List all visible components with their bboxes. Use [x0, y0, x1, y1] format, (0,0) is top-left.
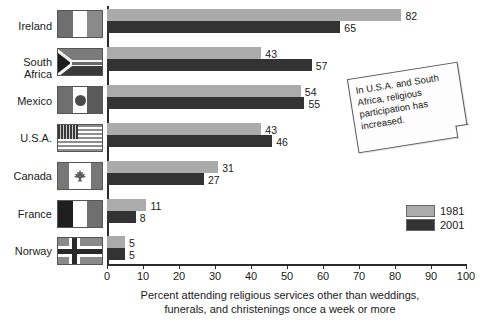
x-tick-30 [215, 264, 216, 269]
bar-value-usa-1981: 43 [265, 124, 277, 136]
bar-ireland-1981 [107, 9, 401, 21]
bar-value-usa-2001: 46 [276, 136, 288, 148]
legend-swatch-1981 [406, 205, 435, 217]
x-tick-label-70: 70 [344, 270, 374, 282]
x-tick-90 [431, 264, 432, 269]
x-tick-40 [251, 264, 252, 269]
category-label-canada: Canada [2, 170, 52, 182]
bar-france-2001 [107, 211, 136, 223]
category-label-ireland: Ireland [2, 20, 52, 32]
callout-note: In U.S.A. and South Africa, religious pa… [347, 62, 469, 154]
bar-canada-1981 [107, 161, 218, 173]
callout-fold-corner [455, 124, 470, 139]
x-axis-title-line-2: funerals, and christenings once a week o… [90, 302, 470, 316]
category-label-norway: Norway [2, 245, 52, 257]
x-tick-50 [287, 264, 288, 269]
bar-mexico-1981 [107, 85, 301, 97]
legend-label-1981: 1981 [440, 205, 464, 217]
x-tick-label-100: 100 [451, 270, 481, 282]
bar-chart: Ireland South Africa Mexico U.S.A. Canad… [0, 0, 485, 336]
bar-value-southafrica-1981: 43 [265, 48, 277, 60]
bar-value-southafrica-2001: 57 [316, 60, 328, 72]
bar-value-france-2001: 8 [140, 212, 146, 224]
x-tick-label-80: 80 [380, 270, 410, 282]
x-tick-label-50: 50 [272, 270, 302, 282]
bar-value-mexico-1981: 54 [305, 86, 317, 98]
x-axis-title: Percent attending religious services oth… [90, 288, 470, 316]
x-tick-label-60: 60 [308, 270, 338, 282]
bar-value-ireland-2001: 65 [344, 22, 356, 34]
flag-south-africa [57, 48, 103, 76]
flag-france [57, 200, 103, 228]
x-tick-70 [359, 264, 360, 269]
bar-canada-2001 [107, 173, 204, 185]
bar-value-norway-2001: 5 [129, 249, 135, 261]
x-tick-label-20: 20 [164, 270, 194, 282]
x-tick-20 [179, 264, 180, 269]
category-label-usa: U.S.A. [2, 132, 52, 144]
flag-usa [57, 124, 103, 152]
bar-value-norway-1981: 5 [129, 237, 135, 249]
x-tick-80 [395, 264, 396, 269]
flag-ireland [57, 10, 103, 38]
flag-canada [57, 162, 103, 190]
x-tick-label-30: 30 [200, 270, 230, 282]
bar-ireland-2001 [107, 21, 340, 33]
bar-southafrica-2001 [107, 59, 312, 71]
x-tick-label-10: 10 [128, 270, 158, 282]
bar-value-mexico-2001: 55 [308, 98, 320, 110]
bar-value-canada-1981: 31 [222, 162, 234, 174]
bar-norway-2001 [107, 248, 125, 260]
x-tick-label-40: 40 [236, 270, 266, 282]
legend-swatch-2001 [406, 219, 435, 231]
x-tick-100 [466, 264, 467, 269]
bar-value-ireland-1981: 82 [405, 10, 417, 22]
bar-value-canada-2001: 27 [208, 174, 220, 186]
bar-usa-2001 [107, 135, 272, 147]
bar-mexico-2001 [107, 97, 304, 109]
x-tick-0 [107, 264, 108, 269]
bar-france-1981 [107, 199, 146, 211]
bar-southafrica-1981 [107, 47, 261, 59]
x-axis-title-line-1: Percent attending religious services oth… [90, 288, 470, 302]
category-label-mexico: Mexico [2, 95, 52, 107]
category-label-south-africa: South Africa [2, 56, 52, 80]
x-tick-60 [323, 264, 324, 269]
x-tick-label-0: 0 [92, 270, 122, 282]
category-label-france: France [2, 208, 52, 220]
bar-value-france-1981: 11 [150, 200, 161, 212]
flag-mexico [57, 86, 103, 114]
flag-norway [57, 237, 103, 265]
x-tick-10 [143, 264, 144, 269]
x-tick-label-90: 90 [416, 270, 446, 282]
bar-norway-1981 [107, 236, 125, 248]
bar-usa-1981 [107, 123, 261, 135]
legend-label-2001: 2001 [440, 219, 464, 231]
